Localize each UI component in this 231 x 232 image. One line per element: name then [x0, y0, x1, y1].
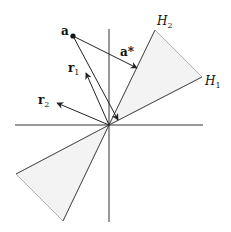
label-a: a	[61, 24, 69, 38]
label-h1: H1	[204, 74, 221, 90]
lower-cone	[16, 125, 109, 221]
cone-diagram: a a* r1 r2 H2 H1	[0, 0, 231, 232]
label-r2: r2	[38, 93, 49, 109]
label-a-star: a*	[120, 45, 135, 59]
arrow-a-to-origin	[73, 36, 118, 120]
label-r1: r1	[68, 61, 79, 77]
label-h2: H2	[156, 14, 173, 30]
